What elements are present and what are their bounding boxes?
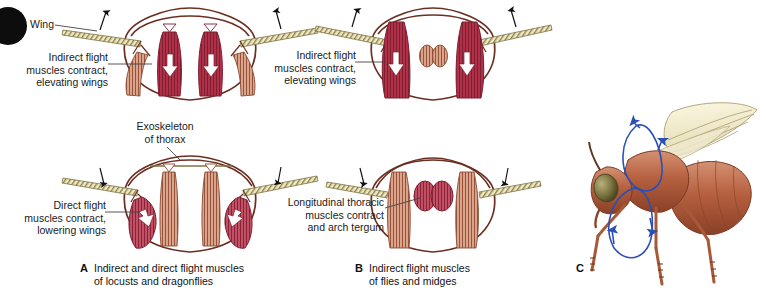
label-indirect-flight-b: Indirect flight muscles contract, elevat…	[248, 49, 356, 87]
insect-flight-muscle-figure: Wing Indirect flight muscles contract, e…	[0, 0, 766, 294]
caption-letter-a: A	[80, 262, 88, 274]
longitudinal-muscle-right-b	[433, 45, 448, 67]
caption-text-a: Indirect and direct flight muscles of lo…	[94, 262, 244, 287]
indirect-muscle-left-b2	[388, 172, 411, 248]
fly-antenna	[589, 142, 600, 170]
longitudinal-muscle-right-b2	[431, 181, 453, 211]
fly-thorax	[622, 151, 689, 212]
label-longitudinal-thoracic: Longitudinal thoracic muscles contract a…	[250, 196, 384, 234]
wingbeat-arrow-down2	[612, 230, 614, 244]
label-direct-flight-a: Direct flight muscles contract, lowering…	[2, 199, 106, 237]
indirect-muscle-right-a2	[202, 172, 220, 246]
fly-proboscis	[595, 208, 600, 228]
indirect-muscle-right-b2	[456, 172, 479, 248]
label-indirect-flight-a: Indirect flight muscles contract, elevat…	[0, 51, 108, 89]
indirect-muscle-left-a2	[160, 172, 178, 246]
label-exoskeleton-of-thorax: Exoskeleton of thorax	[112, 120, 218, 145]
caption-letter-c: C	[576, 262, 584, 274]
label-wing: Wing	[6, 18, 54, 31]
wingbeat-arrow-up2	[658, 140, 662, 150]
panel-c-fly-illustration	[589, 103, 757, 284]
figure-artwork	[0, 0, 766, 294]
leader-wing	[55, 25, 97, 31]
caption-text-b: Indirect flight muscles of flies and mid…	[369, 262, 470, 287]
fly-tarsus-joints	[590, 258, 717, 277]
caption-letter-b: B	[355, 262, 363, 274]
